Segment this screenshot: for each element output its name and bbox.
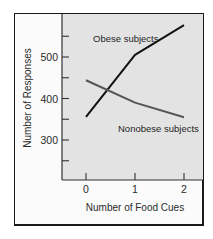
y-axis-title: Number of Responses bbox=[22, 48, 33, 148]
nonobese-series-label: Nonobese subjects bbox=[118, 123, 199, 134]
y-tick-label-400: 400 bbox=[40, 93, 58, 105]
x-axis-title: Number of Food Cues bbox=[86, 202, 184, 213]
y-tick-label-300: 300 bbox=[40, 134, 58, 146]
x-tick-label-0: 0 bbox=[83, 183, 89, 195]
y-tick-label-500: 500 bbox=[40, 51, 58, 63]
obese-series-label: Obese subjects bbox=[93, 33, 159, 44]
x-tick-label-2: 2 bbox=[181, 183, 187, 195]
x-tick-label-1: 1 bbox=[132, 183, 138, 195]
line-chart: 300400500 012 Obese subjects Nonobese su… bbox=[0, 0, 213, 239]
